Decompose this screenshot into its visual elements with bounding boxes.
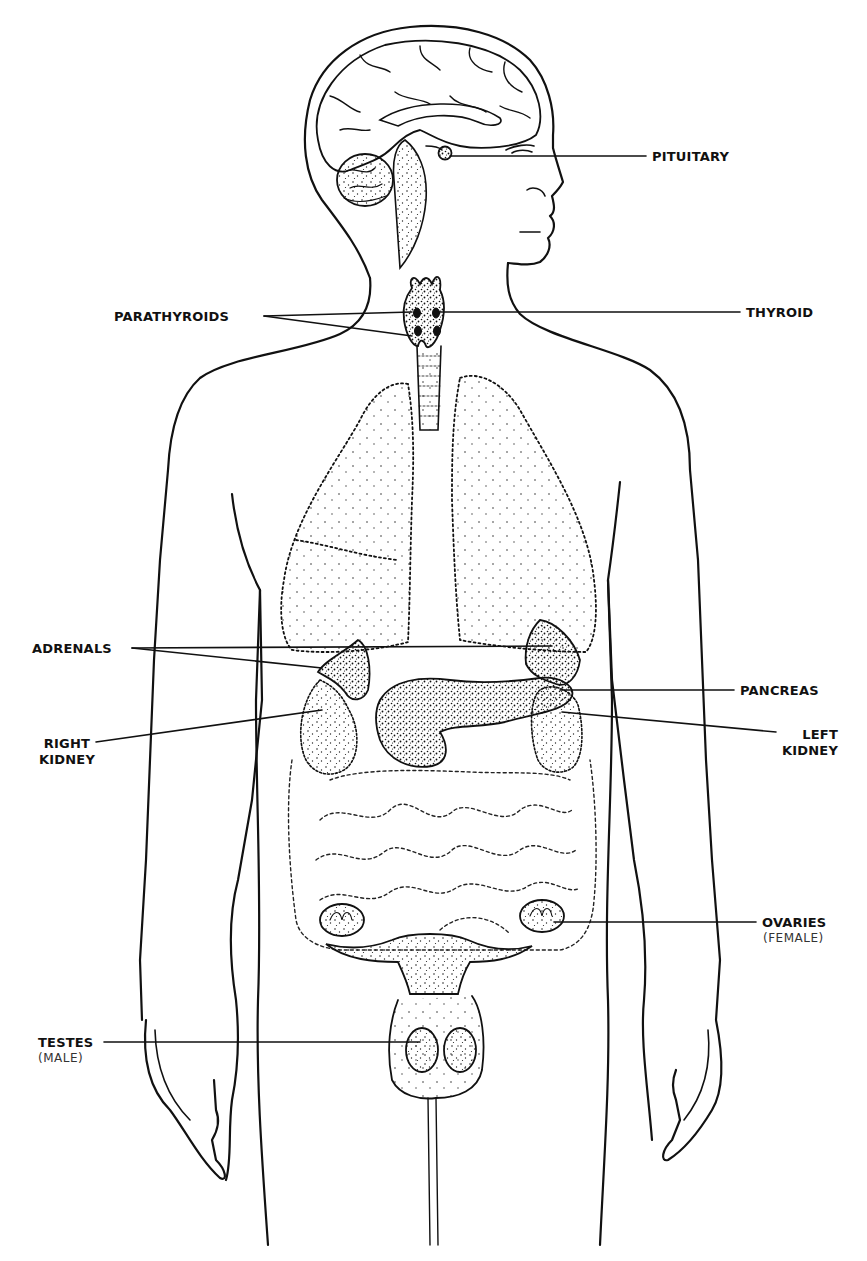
label-adrenals: ADRENALS <box>32 641 112 656</box>
right-testis <box>406 1028 438 1072</box>
reproductive-organs <box>320 900 564 1098</box>
right-lung <box>281 383 413 652</box>
label-thyroid: THYROID <box>746 305 813 320</box>
center-line <box>428 1098 438 1245</box>
trachea <box>417 346 441 430</box>
parathyroid-2 <box>433 308 440 318</box>
right-hand <box>663 1020 722 1160</box>
label-pancreas: PANCREAS <box>740 683 819 698</box>
torso-right <box>600 580 612 1245</box>
label-ovaries-text: OVARIES <box>762 915 826 930</box>
parathyroids-leader-b <box>264 316 412 336</box>
brainstem <box>393 140 426 268</box>
label-right-kidney-line2: KIDNEY <box>36 752 98 767</box>
label-right-kidney-line1: RIGHT <box>36 736 98 751</box>
parathyroid-4 <box>434 326 441 336</box>
label-pituitary: PITUITARY <box>652 149 729 164</box>
right-inner-arm <box>608 482 652 1140</box>
left-hand <box>145 1020 225 1179</box>
adrenals-leader-a <box>132 646 552 648</box>
label-parathyroids: PARATHYROIDS <box>114 309 229 324</box>
left-kidney-leader <box>562 712 776 732</box>
label-testes-text: TESTES <box>38 1035 93 1050</box>
endocrine-system-diagram <box>0 0 867 1261</box>
parathyroid-3 <box>415 326 422 336</box>
right-kidney-leader <box>96 710 322 742</box>
cerebrum <box>317 41 541 172</box>
left-lung <box>452 376 596 652</box>
brain <box>317 41 541 268</box>
parathyroids-leader-a <box>264 312 412 316</box>
label-ovaries-note: (FEMALE) <box>763 931 824 945</box>
head-outline <box>305 26 563 278</box>
label-left-kidney-line1: LEFT <box>770 727 838 742</box>
uterus <box>326 934 532 994</box>
label-left-kidney-line2: KIDNEY <box>770 743 838 758</box>
parathyroid-1 <box>414 308 421 318</box>
label-testes-note: (MALE) <box>38 1051 83 1065</box>
left-inner-arm <box>226 494 262 1180</box>
left-testis <box>444 1028 476 1072</box>
eye <box>506 145 534 153</box>
